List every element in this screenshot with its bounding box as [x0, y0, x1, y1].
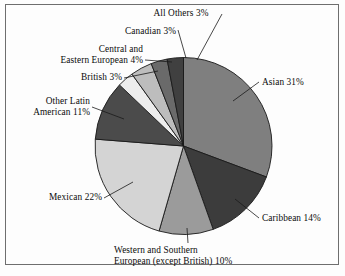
slice-label-central-eastern-european: Central and Eastern European 4%	[20, 44, 143, 65]
slice-label-other-latin-american: Other Latin American 11%	[4, 96, 90, 117]
slice-label-asian: Asian 31%	[262, 77, 304, 88]
slice-label-other-latin-american-line1: Other Latin	[4, 96, 90, 107]
slice-label-central-eastern-european-line2: Eastern European 4%	[20, 55, 143, 66]
pie-chart-canvas	[0, 0, 345, 276]
slice-label-central-eastern-european-line1: Central and	[20, 44, 143, 55]
slice-label-mexican-text: Mexican 22%	[49, 192, 102, 202]
slice-label-all-others-text: All Others 3%	[153, 8, 208, 18]
slice-label-all-others: All Others 3%	[153, 8, 208, 19]
slice-label-asian-text: Asian 31%	[262, 77, 304, 87]
slice-label-british: British 3%	[38, 72, 122, 83]
leader-line-all-others	[197, 14, 222, 60]
leader-line-canadian	[178, 30, 186, 58]
slice-label-caribbean: Caribbean 14%	[262, 213, 321, 224]
slice-label-western-southern-european-line1: Western and Southern	[114, 245, 232, 256]
slice-label-mexican: Mexican 22%	[18, 192, 102, 203]
slice-label-canadian-text: Canadian 3%	[125, 26, 176, 36]
pie-slices-group	[95, 57, 272, 234]
slice-label-british-text: British 3%	[81, 72, 122, 82]
slice-label-caribbean-text: Caribbean 14%	[262, 213, 321, 223]
pie-chart-figure: All Others 3% Canadian 3% Central and Ea…	[0, 0, 345, 276]
slice-label-western-southern-european: Western and Southern European (except Br…	[114, 245, 232, 266]
slice-label-other-latin-american-line2: American 11%	[4, 107, 90, 118]
slice-label-canadian: Canadian 3%	[92, 26, 176, 37]
slice-label-western-southern-european-line2: European (except British) 10%	[114, 256, 232, 267]
